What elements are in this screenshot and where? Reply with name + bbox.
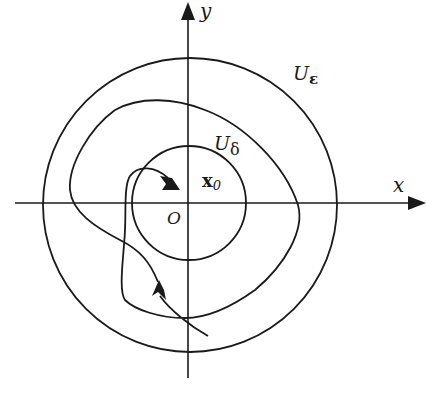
y-axis-label: y [199, 0, 212, 23]
trajectory-curve [70, 100, 300, 336]
trajectory-arrow-lower-icon [152, 280, 166, 300]
stability-diagram: y x O Uε Uδ x0 [0, 0, 426, 395]
trajectory-arrow-upper-icon [160, 176, 180, 190]
equilibrium-point-label: x0 [202, 170, 221, 193]
x-axis-arrowhead-icon [408, 196, 426, 210]
origin-label: O [167, 208, 181, 228]
axes [15, 16, 414, 378]
outer-region-circle [43, 58, 337, 352]
y-axis-arrowhead-icon [181, 2, 195, 20]
inner-region-label: Uδ [214, 132, 240, 159]
x-axis-label: x [393, 173, 404, 197]
outer-region-label: Uε [293, 62, 318, 88]
